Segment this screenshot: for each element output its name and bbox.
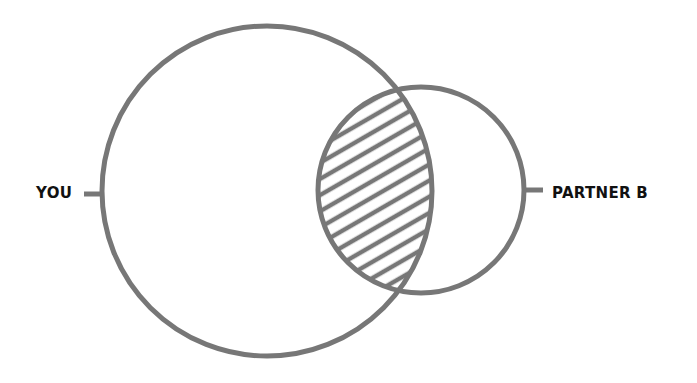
you-label: YOU (36, 184, 72, 202)
partner-b-label: PARTNER B (552, 184, 648, 202)
